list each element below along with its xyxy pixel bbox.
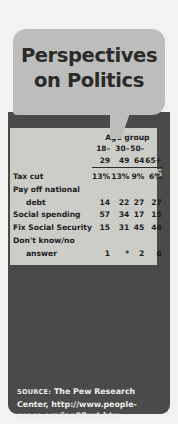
table-row: debt 14 22 27 27 (13, 195, 163, 208)
page-title: Perspectives on Politics (13, 43, 165, 93)
cell-social-spending-18-29: 57 (92, 208, 111, 221)
title-speech-bubble: Perspectives on Politics (13, 29, 165, 115)
table-col-header-65plus: 65+ (145, 143, 162, 167)
cell-dont-know-30-49: * (111, 247, 130, 260)
cell-tax-cut-65plus: 6% (145, 168, 162, 182)
table-head: Age group 18–29 30–49 50–64 65+ (13, 132, 163, 168)
row-label-social-spending: Social spending (13, 208, 92, 221)
cell-fix-ss-50-64: 45 (130, 221, 145, 234)
table-row: Pay off national (13, 182, 163, 195)
source-note: SOURCE: The Pew Research Center, http://… (17, 386, 164, 422)
cell-dont-know-65plus: 6 (145, 247, 162, 260)
table-col-header-30-49: 30–49 (111, 143, 130, 167)
table-col-header-50-64: 50–64 (130, 143, 145, 167)
cell-tax-cut-18-29: 13% (92, 168, 111, 182)
cell-dont-know-50-64: 2 (130, 247, 145, 260)
table-corner-cell (13, 132, 92, 143)
age-group-table: Age group 18–29 30–49 50–64 65+ Tax cut … (13, 132, 163, 260)
table-group-header-row: Age group (13, 132, 163, 143)
table-body: Tax cut 13% 13% 9% 6% Pay off national d… (13, 168, 163, 260)
table-row: Don't know/no (13, 234, 163, 247)
table-row: Tax cut 13% 13% 9% 6% (13, 168, 163, 182)
cell-debt-18-29: 14 (92, 195, 111, 208)
cell-tax-cut-30-49: 13% (111, 168, 130, 182)
cell-fix-ss-18-29: 15 (92, 221, 111, 234)
cell-fix-ss-65plus: 46 (145, 221, 162, 234)
cell-tax-cut-50-64: 9% (130, 168, 145, 182)
cell-debt-30-49: 22 (111, 195, 130, 208)
table-rowlabel-header (13, 143, 92, 167)
cell-dont-know-18-29: 1 (92, 247, 111, 260)
row-label-tax-cut: Tax cut (13, 168, 92, 182)
table-row: Social spending 57 34 17 15 (13, 208, 163, 221)
row-label-answer: answer (13, 247, 92, 260)
row-label-pay-off-national: Pay off national (13, 182, 163, 195)
table-col-header-18-29: 18–29 (92, 143, 111, 167)
cell-debt-50-64: 27 (130, 195, 145, 208)
cell-social-spending-65plus: 15 (145, 208, 162, 221)
table-row: answer 1 * 2 6 (13, 247, 163, 260)
speech-bubble-tail-icon (110, 113, 130, 139)
perspectives-on-politics-figure: GENERATIONAL DIVIDES “ What should the g… (0, 0, 178, 424)
table-column-header-row: 18–29 30–49 50–64 65+ (13, 143, 163, 167)
row-label-debt: debt (13, 195, 92, 208)
row-label-dont-know: Don't know/no (13, 234, 163, 247)
cell-debt-65plus: 27 (145, 195, 162, 208)
data-table-card: Age group 18–29 30–49 50–64 65+ Tax cut … (10, 128, 157, 265)
cell-fix-ss-30-49: 31 (111, 221, 130, 234)
cell-social-spending-30-49: 34 (111, 208, 130, 221)
row-label-fix-social-security: Fix Social Security (13, 221, 92, 234)
table-row: Fix Social Security 15 31 45 46 (13, 221, 163, 234)
cell-social-spending-50-64: 17 (130, 208, 145, 221)
source-label: SOURCE: (17, 388, 51, 396)
